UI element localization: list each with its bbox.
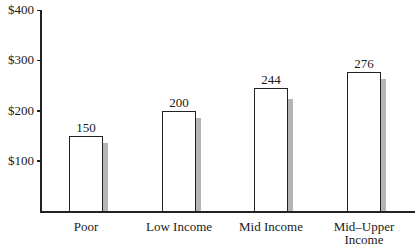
y-tick-label: $300 [0,52,34,68]
value-label: 244 [241,72,301,88]
category-label-line1: Mid Income [221,220,321,233]
y-tick [37,60,41,62]
bar-low-income [162,111,196,213]
value-label: 276 [334,56,394,72]
y-tick [37,10,41,12]
bar-mid-income [254,88,288,212]
category-label: Poor [36,220,136,233]
bar-mid-upper-income [347,72,381,212]
category-label-line2: Income [314,233,414,245]
bar-poor [69,136,103,212]
category-label-line1: Poor [36,220,136,233]
y-tick [37,160,41,162]
y-tick-label: $100 [0,153,34,169]
category-label-line1: Low Income [129,220,229,233]
category-label: Low Income [129,220,229,233]
value-label: 200 [149,95,209,111]
bar-chart: $100$200$300$400 150Poor200Low Income244… [0,0,417,245]
value-label: 150 [56,120,116,136]
category-label: Mid Income [221,220,321,233]
y-tick-label: $400 [0,2,34,18]
y-tick-label: $200 [0,103,34,119]
category-label: Mid–UpperIncome [314,220,414,245]
y-tick [37,110,41,112]
